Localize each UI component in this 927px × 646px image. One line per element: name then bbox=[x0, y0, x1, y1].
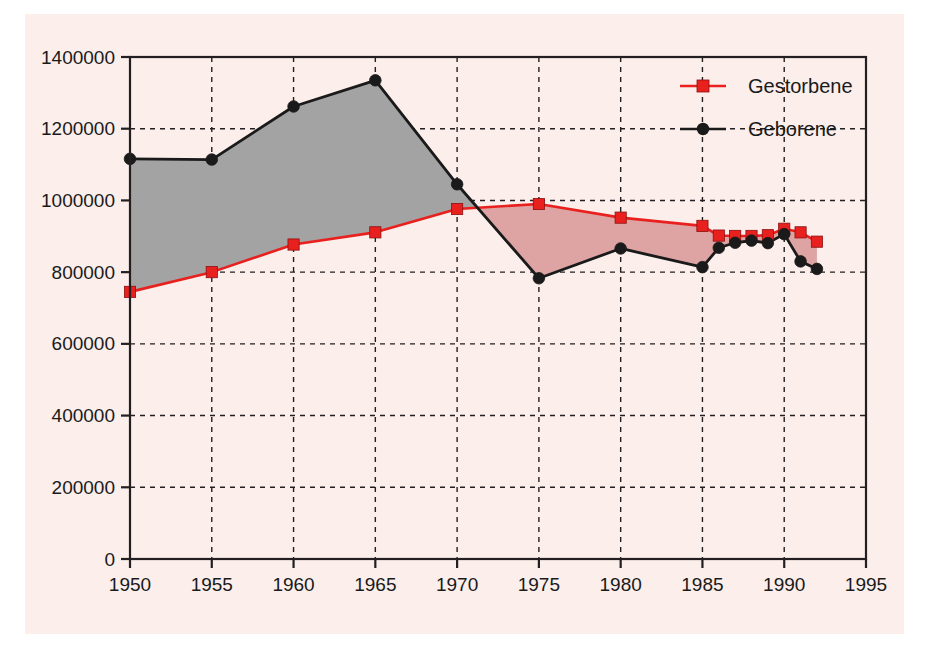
data-point-gestorbene-1965 bbox=[370, 227, 381, 238]
data-point-gestorbene-1985 bbox=[697, 220, 708, 231]
data-point-gestorbene-1955 bbox=[206, 267, 217, 278]
legend-marker-geborene bbox=[697, 123, 709, 135]
y-tick-label-200000: 200000 bbox=[52, 477, 115, 498]
x-tick-label-1965: 1965 bbox=[354, 574, 396, 595]
x-tick-label-1995: 1995 bbox=[845, 574, 887, 595]
data-point-geborene-1987 bbox=[729, 237, 741, 249]
data-point-geborene-1986 bbox=[713, 242, 725, 254]
x-tick-label-1975: 1975 bbox=[518, 574, 560, 595]
x-tick-label-1985: 1985 bbox=[681, 574, 723, 595]
data-point-gestorbene-1970 bbox=[452, 203, 463, 214]
data-point-geborene-1975 bbox=[533, 272, 545, 284]
chart-legend: GestorbeneGeborene bbox=[680, 75, 853, 140]
area-fill-grey-0 bbox=[130, 80, 478, 292]
x-tick-label-1990: 1990 bbox=[763, 574, 805, 595]
data-point-gestorbene-1960 bbox=[288, 239, 299, 250]
y-tick-label-800000: 800000 bbox=[52, 262, 115, 283]
y-tick-label-1400000: 1400000 bbox=[41, 47, 115, 68]
data-point-geborene-1991 bbox=[795, 256, 807, 268]
data-point-geborene-1955 bbox=[206, 154, 218, 166]
y-tick-label-0: 0 bbox=[104, 549, 115, 570]
data-point-gestorbene-1975 bbox=[533, 198, 544, 209]
line-chart: 0200000400000600000800000100000012000001… bbox=[25, 14, 904, 634]
legend-label-gestorbene: Gestorbene bbox=[748, 75, 853, 97]
legend-label-geborene: Geborene bbox=[748, 118, 837, 140]
data-point-geborene-1985 bbox=[697, 261, 709, 273]
legend-marker-gestorbene bbox=[697, 80, 709, 92]
y-tick-label-400000: 400000 bbox=[52, 405, 115, 426]
y-tick-label-600000: 600000 bbox=[52, 333, 115, 354]
area-fills bbox=[130, 80, 817, 292]
x-tick-label-1980: 1980 bbox=[600, 574, 642, 595]
chart-figure: 0200000400000600000800000100000012000001… bbox=[0, 0, 927, 646]
data-point-gestorbene-1991 bbox=[795, 227, 806, 238]
x-tick-label-1970: 1970 bbox=[436, 574, 478, 595]
data-point-geborene-1965 bbox=[370, 75, 382, 87]
data-point-geborene-1988 bbox=[746, 235, 758, 247]
chart-plate: 0200000400000600000800000100000012000001… bbox=[25, 14, 904, 634]
data-point-geborene-1990 bbox=[778, 228, 790, 240]
x-tick-label-1950: 1950 bbox=[109, 574, 151, 595]
data-point-geborene-1992 bbox=[811, 263, 823, 275]
data-point-gestorbene-1980 bbox=[615, 212, 626, 223]
data-point-geborene-1970 bbox=[451, 178, 463, 190]
y-tick-label-1200000: 1200000 bbox=[41, 118, 115, 139]
data-point-gestorbene-1992 bbox=[811, 236, 822, 247]
data-point-geborene-1989 bbox=[762, 237, 774, 249]
y-tick-label-1000000: 1000000 bbox=[41, 190, 115, 211]
data-point-geborene-1960 bbox=[288, 101, 300, 113]
x-tick-label-1955: 1955 bbox=[191, 574, 233, 595]
data-point-geborene-1980 bbox=[615, 243, 627, 255]
data-point-gestorbene-1986 bbox=[713, 230, 724, 241]
x-tick-label-1960: 1960 bbox=[272, 574, 314, 595]
